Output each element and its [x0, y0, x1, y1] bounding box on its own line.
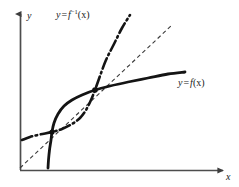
inverse-curve-group [22, 15, 130, 140]
intersection-markers [49, 87, 97, 134]
x-axis-label: x [226, 172, 230, 182]
label-inverse-exponent: −1 [71, 8, 78, 15]
curve-inverse-function [22, 15, 130, 140]
plot-canvas [0, 0, 239, 187]
label-function-equals: = [182, 77, 190, 88]
y-axis-label: y [27, 11, 31, 21]
label-inverse-function: y=f−1(x) [56, 10, 89, 20]
intersection-point-lower [49, 129, 54, 134]
identity-line-group [20, 25, 172, 168]
label-inverse-equals: = [60, 9, 68, 20]
intersection-point-upper [92, 87, 98, 93]
inverse-function-figure: y=f−1(x) y=f(x) y x [0, 0, 239, 187]
label-inverse-arg: (x) [78, 9, 90, 20]
curve-function [48, 72, 185, 168]
label-function-arg: (x) [193, 77, 205, 88]
identity-line-y-equals-x [20, 25, 172, 168]
function-curve-group [48, 72, 185, 168]
label-function: y=f(x) [178, 78, 205, 88]
